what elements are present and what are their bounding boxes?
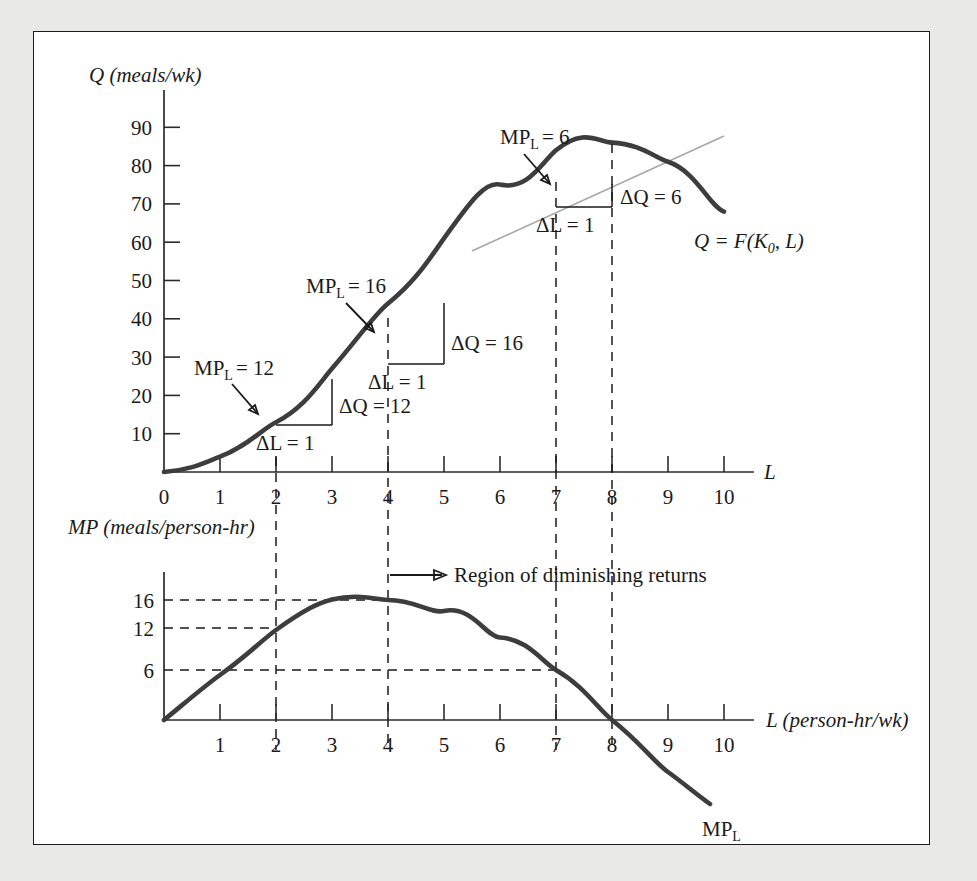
- bottom-chart: MP (meals/person-hr) 6 12 16 1 2 3: [67, 515, 909, 844]
- bottom-x-tick-label: 3: [327, 733, 338, 757]
- bottom-x-tick-label: 4: [383, 733, 394, 757]
- delta-q-label-1: ΔQ = 12: [339, 394, 411, 418]
- bottom-x-tick-label: 9: [663, 733, 674, 757]
- production-function-label: Q = F(K0, L): [694, 229, 804, 256]
- delta-l-label-3: ΔL = 1: [536, 213, 594, 237]
- delta-q-label-3: ΔQ = 6: [620, 185, 682, 209]
- bottom-x-axis-title: L (person-hr/wk): [765, 708, 909, 732]
- top-y-tick-label: 70: [131, 192, 152, 216]
- top-x-tick-label: 6: [495, 485, 506, 509]
- top-y-tick-label: 10: [131, 422, 152, 446]
- top-chart: Q (meals/wk) 10 20 30 40 50 60 70: [89, 63, 804, 750]
- bottom-x-tick-label: 10: [714, 733, 735, 757]
- bottom-x-tick-label: 2: [271, 733, 282, 757]
- top-y-ticks: 10 20 30 40 50 60 70 80 90: [131, 116, 180, 446]
- bottom-y-axis-title: MP (meals/person-hr): [67, 515, 255, 539]
- bottom-x-tick-label: 6: [495, 733, 506, 757]
- mp-curve-label: MPL: [702, 817, 741, 844]
- mp-annotation-2: MPL= 16: [306, 274, 386, 301]
- bottom-x-ticks: 1 2 3 4 5 6 7 8 9 10: [215, 704, 735, 757]
- top-x-tick-label: 1: [215, 485, 226, 509]
- bottom-y-tick-label: 16: [133, 589, 154, 613]
- bottom-x-tick-label: 7: [551, 733, 562, 757]
- top-x-tick-label: 9: [663, 485, 674, 509]
- top-x-ticks: 0 1 2 3 4 5 6 7 8 9 10: [159, 456, 735, 509]
- bottom-x-tick-label: 5: [439, 733, 450, 757]
- mp-annotation-3: MPL= 6: [500, 125, 570, 152]
- top-y-tick-label: 40: [131, 307, 152, 331]
- tangent-line-at-L7: [472, 136, 724, 251]
- delta-l-label-2: ΔL = 1: [368, 370, 426, 394]
- bottom-x-tick-label: 8: [607, 733, 618, 757]
- figure-svg: Q (meals/wk) 10 20 30 40 50 60 70: [34, 32, 929, 844]
- top-x-tick-label: 0: [159, 485, 170, 509]
- top-y-axis-title: Q (meals/wk): [89, 63, 202, 87]
- top-y-tick-label: 60: [131, 231, 152, 255]
- region-of-diminishing-returns: Region of diminishing returns: [390, 563, 707, 587]
- top-x-tick-label: 3: [327, 485, 338, 509]
- bottom-y-ticks: 6 12 16: [133, 589, 154, 683]
- top-y-tick-label: 20: [131, 384, 152, 408]
- top-y-tick-label: 80: [131, 154, 152, 178]
- mp-annotation-1: MPL= 12: [194, 356, 274, 383]
- bottom-x-tick-label: 1: [215, 733, 226, 757]
- top-y-tick-label: 50: [131, 269, 152, 293]
- top-x-tick-label: 5: [439, 485, 450, 509]
- delta-q-label-2: ΔQ = 16: [451, 331, 523, 355]
- figure-panel: Q (meals/wk) 10 20 30 40 50 60 70: [33, 31, 930, 845]
- slope-triangle-L4: ΔQ = 16 ΔL = 1 MPL= 16: [306, 274, 523, 394]
- bottom-y-tick-label: 6: [144, 659, 155, 683]
- top-x-axis-title: L: [763, 460, 776, 484]
- region-label: Region of diminishing returns: [454, 563, 707, 587]
- delta-l-label-1: ΔL = 1: [256, 431, 314, 455]
- top-y-tick-label: 90: [131, 116, 152, 140]
- top-y-tick-label: 30: [131, 346, 152, 370]
- bottom-y-tick-label: 12: [133, 617, 154, 641]
- top-x-tick-label: 10: [714, 485, 735, 509]
